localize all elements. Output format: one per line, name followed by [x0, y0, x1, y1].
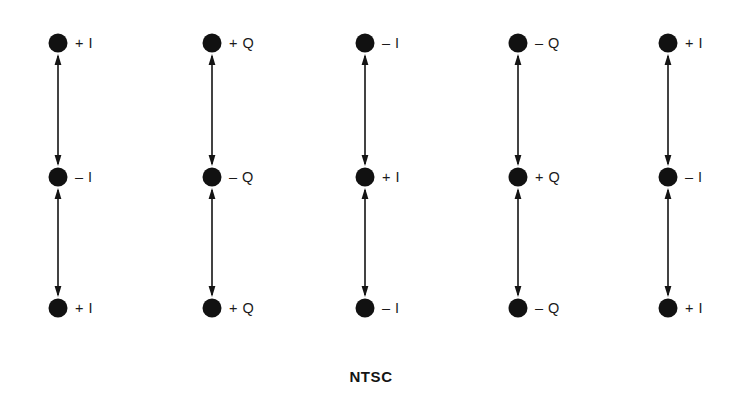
double-arrow-icon — [358, 54, 372, 166]
node-label: + Q — [229, 300, 254, 316]
node-dot — [659, 299, 678, 318]
double-arrow-icon — [511, 188, 525, 297]
node-label: + I — [382, 169, 400, 185]
node-dot — [49, 299, 68, 318]
double-arrow-icon — [511, 54, 525, 166]
node-dot — [356, 168, 375, 187]
node-label: – I — [382, 300, 400, 316]
node-label: – I — [75, 169, 93, 185]
double-arrow-icon — [51, 188, 65, 297]
node-dot — [659, 168, 678, 187]
node-dot — [203, 168, 222, 187]
figure-caption: NTSC — [0, 368, 742, 385]
node-label: – Q — [535, 35, 560, 51]
node-label: + I — [685, 300, 703, 316]
node-label: – I — [685, 169, 703, 185]
node-label: + I — [685, 35, 703, 51]
double-arrow-icon — [661, 188, 675, 297]
double-arrow-icon — [51, 54, 65, 166]
node-dot — [49, 34, 68, 53]
double-arrow-icon — [205, 54, 219, 166]
node-label: – I — [382, 35, 400, 51]
double-arrow-icon — [205, 188, 219, 297]
double-arrow-icon — [358, 188, 372, 297]
diagram-column-3: – I+ I– I — [305, 0, 425, 404]
node-dot — [509, 299, 528, 318]
node-dot — [203, 299, 222, 318]
diagram-column-2: + Q– Q+ Q — [152, 0, 272, 404]
node-label: + I — [75, 300, 93, 316]
node-dot — [356, 34, 375, 53]
node-dot — [203, 34, 222, 53]
node-dot — [509, 34, 528, 53]
node-label: – Q — [229, 169, 254, 185]
node-label: + I — [75, 35, 93, 51]
node-dot — [49, 168, 68, 187]
node-label: – Q — [535, 300, 560, 316]
ntsc-phase-diagram: + I– I+ I+ Q– Q+ Q– I+ I– I– Q+ Q– Q+ I–… — [0, 0, 742, 404]
diagram-column-1: + I– I+ I — [0, 0, 118, 404]
node-label: + Q — [535, 169, 560, 185]
diagram-column-5: + I– I+ I — [608, 0, 728, 404]
node-dot — [659, 34, 678, 53]
node-dot — [509, 168, 528, 187]
double-arrow-icon — [661, 54, 675, 166]
node-label: + Q — [229, 35, 254, 51]
node-dot — [356, 299, 375, 318]
diagram-column-4: – Q+ Q– Q — [458, 0, 578, 404]
